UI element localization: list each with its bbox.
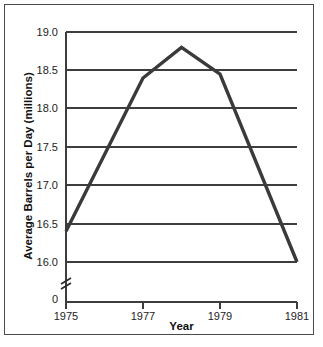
ytick-label-zero: 0 — [24, 293, 58, 305]
x-axis-title: Year — [66, 320, 297, 332]
data-series-line — [66, 47, 297, 262]
ytick-label-19-0: 19.0 — [24, 27, 58, 38]
chart-figure: 19.0 18.5 18.0 17.5 17.0 16.5 16.0 0 197… — [0, 0, 323, 347]
y-axis-title: Average Barrels per Day (millions) — [22, 66, 34, 266]
